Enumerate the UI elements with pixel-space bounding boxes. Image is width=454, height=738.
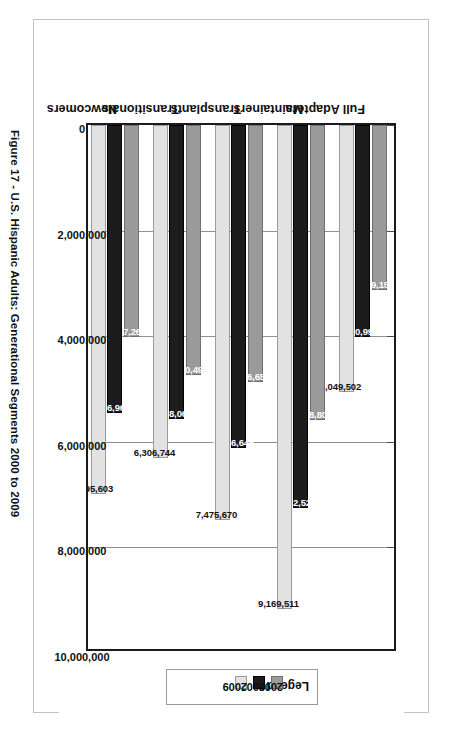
bar-maintainers-2009	[277, 125, 292, 609]
bar-newcomers-2009	[91, 125, 106, 494]
bar-transplants-2000	[248, 125, 263, 382]
bar-full-adapters-2009	[339, 125, 354, 392]
bar-transplants-2004	[232, 125, 247, 448]
axis-tick-label: 4,000,000	[58, 334, 107, 346]
axis-tick	[387, 231, 394, 232]
gridline	[88, 547, 394, 548]
figure-caption-text: Figure 17 - U.S. Hispanic Adults: Genera…	[0, 130, 30, 650]
bar-value-label: 6,306,744	[134, 446, 175, 457]
bar-value-label: 6,995,603	[86, 483, 114, 494]
chart-rotation-wrapper: 3,129,1594,020,9935,049,5025,578,8027,26…	[59, 123, 404, 713]
bar-maintainers-2004	[294, 125, 309, 508]
category-label-transplants: Transplants	[171, 102, 241, 116]
plot-area: 3,129,1594,020,9935,049,5025,578,8027,26…	[86, 123, 396, 651]
bar-value-label: 7,475,670	[196, 508, 237, 519]
legend-label-2009: 2009	[223, 681, 247, 693]
legend-entry-2000: 2000	[269, 676, 283, 706]
bar-full-adapters-2000	[372, 125, 387, 290]
bar-full-adapters-2004	[356, 125, 371, 337]
axis-tick-label: 0	[79, 123, 85, 135]
legend-entry-2004: 2004	[251, 676, 265, 706]
chart-legend: Legend 200020042009	[166, 669, 318, 705]
legend-entry-2009: 2009	[233, 676, 247, 706]
axis-tick	[387, 442, 394, 443]
figure-caption: Figure 17 - U.S. Hispanic Adults: Genera…	[0, 130, 30, 650]
bar-chart: 3,129,1594,020,9935,049,5025,578,8027,26…	[59, 123, 404, 713]
bar-value-label: 5,049,502	[320, 380, 361, 391]
axis-tick-label: 2,000,000	[58, 229, 107, 241]
axis-tick	[387, 125, 394, 126]
category-label-newcomers: Newcomers	[47, 102, 117, 116]
bar-value-label: 9,169,511	[259, 598, 300, 609]
bar-transplants-2009	[215, 125, 230, 520]
bar-newcomers-2004	[108, 125, 123, 413]
bar-transitionals-2009	[153, 125, 168, 458]
bar-newcomers-2000	[124, 125, 139, 337]
bar-maintainers-2000	[310, 125, 325, 420]
axis-tick-label: 6,000,000	[58, 440, 107, 452]
bar-transitionals-2000	[186, 125, 201, 375]
bar-transitionals-2004	[170, 125, 185, 419]
axis-tick	[387, 336, 394, 337]
category-label-maintainers: Maintainers	[234, 102, 303, 116]
axis-tick-label: 8,000,000	[58, 545, 107, 557]
axis-tick	[387, 547, 394, 548]
axis-tick-label: 10,000,000	[54, 651, 109, 663]
